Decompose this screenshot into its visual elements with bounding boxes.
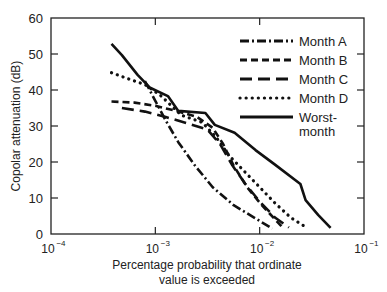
y-tick-label: 30 [29,119,43,134]
series-worst-month [112,44,331,228]
x-tick-label: 10 [146,242,160,256]
legend-label: Worst- [299,110,337,125]
y-tick-label: 10 [29,191,43,206]
x-tick-label: 10 [354,242,368,256]
y-tick-label: 20 [29,155,43,170]
y-tick-label: 50 [29,47,43,62]
x-axis-label-line2: value is exceeded [159,273,255,287]
x-tick-label: 10 [41,242,55,256]
series-month-d [112,73,307,228]
y-axis-label: Copolar attenuation (dB) [9,61,23,192]
series-month-a [145,81,272,229]
x-tick-exponent: −1 [369,239,379,248]
x-tick-exponent: −2 [265,239,275,248]
y-tick-label: 60 [29,11,43,26]
y-tick-label: 0 [36,227,43,242]
legend-label: Month A [299,34,347,49]
x-tick-exponent: −3 [161,239,171,248]
data-series [112,44,331,229]
attenuation-chart: 010203040506010−410−310−210−1 Month AMon… [0,0,387,292]
x-tick-label: 10 [250,242,264,256]
legend-label: Month B [299,53,347,68]
legend: Month AMonth BMonth CMonth DWorst-month [240,34,348,139]
legend-label: Month C [299,72,348,87]
legend-label: Month D [299,91,348,106]
legend-label-line2: month [299,124,335,139]
x-axis-label-line1: Percentage probability that ordinate [112,258,302,272]
series-month-b [112,102,283,228]
y-tick-label: 40 [29,83,43,98]
x-tick-exponent: −4 [56,239,66,248]
